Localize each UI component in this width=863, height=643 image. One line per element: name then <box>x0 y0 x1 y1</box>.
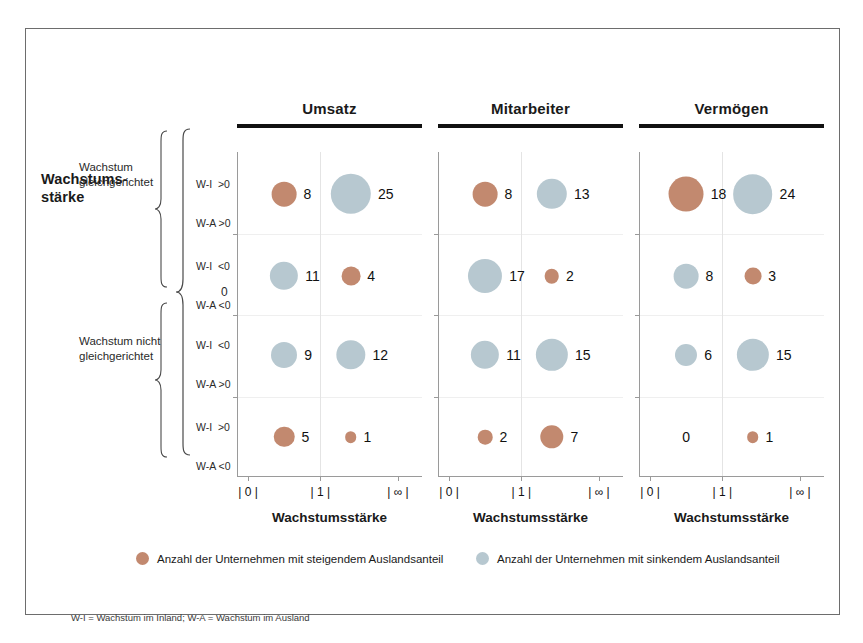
y-axis-tick-0 <box>635 234 640 235</box>
group-brace-opposed <box>154 301 170 459</box>
row-separator-2 <box>639 397 824 398</box>
x-axis-tick-0 <box>650 476 651 481</box>
bubble-value-mitarbeiter-r0c1: 13 <box>574 186 590 202</box>
row-label-1-line2: W-A <0 <box>196 299 231 312</box>
row-separator-0 <box>639 234 824 235</box>
x-axis-title-vermögen: Wachstumsstärke <box>639 510 824 525</box>
row-label-0-line2: W-A >0 <box>196 217 231 230</box>
row-separator-1 <box>237 315 422 316</box>
bubble-vermögen-r1c0[interactable] <box>674 264 699 289</box>
bubble-value-vermögen-r2c1: 15 <box>776 347 792 363</box>
y-axis-tick-0 <box>434 234 439 235</box>
plot-area-umsatz: 82511491251 <box>237 152 422 477</box>
bubble-mitarbeiter-r3c1[interactable] <box>540 425 563 448</box>
bubble-vermögen-r2c1[interactable] <box>737 339 769 371</box>
x-axis-tick-1 <box>320 476 321 481</box>
x-axis-tick-2 <box>800 476 801 481</box>
bubble-vermögen-r3c1[interactable] <box>747 431 759 443</box>
x-tick-label-1: | 1 | <box>712 485 732 499</box>
bubble-value-mitarbeiter-r2c0: 11 <box>506 347 521 363</box>
panel-title-vermögen: Vermögen <box>639 100 824 117</box>
bubble-value-vermögen-r0c0: 18 <box>711 186 727 202</box>
x-axis-tick-0 <box>248 476 249 481</box>
bubble-value-vermögen-r2c0: 6 <box>704 347 712 363</box>
plot-area-vermögen: 18248361501 <box>639 152 824 477</box>
panel-mitarbeiter: Mitarbeiter813172111527| 0 || 1 || ∞ |Wa… <box>438 152 623 477</box>
bubble-value-umsatz-r3c1: 1 <box>364 429 372 445</box>
row-label-0-line1: W-I >0 <box>196 178 231 191</box>
x-tick-label-0: | 0 | <box>640 485 660 499</box>
y-axis-tick-1 <box>434 315 439 316</box>
x-tick-label-2: | ∞ | <box>789 485 810 499</box>
x-tick-label-1: | 1 | <box>310 485 330 499</box>
bubble-value-mitarbeiter-r3c0: 2 <box>499 429 507 445</box>
bubble-value-umsatz-r0c0: 8 <box>304 186 312 202</box>
bubble-mitarbeiter-r1c0[interactable] <box>468 259 502 293</box>
bubble-umsatz-r1c0[interactable] <box>270 262 298 290</box>
bubble-umsatz-r0c1[interactable] <box>331 174 371 214</box>
bubble-umsatz-r2c1[interactable] <box>336 340 365 369</box>
x-axis-title-umsatz: Wachstumsstärke <box>237 510 422 525</box>
bubble-mitarbeiter-r0c0[interactable] <box>473 182 498 207</box>
panel-title-mitarbeiter: Mitarbeiter <box>438 100 623 117</box>
panel-rule-mitarbeiter <box>438 124 623 128</box>
row-group-label-opposed: Wachstum nicht gleichgerichtet <box>79 334 160 364</box>
y-axis-tick-0 <box>233 234 238 235</box>
x-gridline-one <box>320 152 321 477</box>
y-axis-tick-2 <box>635 397 640 398</box>
x-tick-label-2: | ∞ | <box>588 485 609 499</box>
bubble-mitarbeiter-r1c1[interactable] <box>544 269 559 284</box>
bubble-value-mitarbeiter-r3c1: 7 <box>570 429 578 445</box>
bubble-value-mitarbeiter-r1c0: 17 <box>509 268 525 284</box>
y-axis-tick-2 <box>434 397 439 398</box>
panel-rule-vermögen <box>639 124 824 128</box>
bubble-vermögen-r0c0[interactable] <box>669 177 704 212</box>
footnote: W-I = Wachstum im Inland; W-A = Wachstum… <box>71 612 310 623</box>
bubble-mitarbeiter-r2c1[interactable] <box>536 339 568 371</box>
x-axis-line <box>438 476 623 477</box>
x-axis-tick-0 <box>449 476 450 481</box>
bubble-value-umsatz-r2c0: 9 <box>304 347 312 363</box>
row-group-label-aligned-line2: gleichgerichtet <box>79 175 153 190</box>
x-tick-label-0: | 0 | <box>238 485 258 499</box>
bubble-mitarbeiter-r0c1[interactable] <box>537 179 567 209</box>
figure-frame: Wachstums- stärke Wachstum gleichgericht… <box>25 28 840 615</box>
x-axis-tick-2 <box>599 476 600 481</box>
y-axis-tick-2 <box>233 397 238 398</box>
plot-area-mitarbeiter: 813172111527 <box>438 152 623 477</box>
bubble-vermögen-r2c0[interactable] <box>675 344 697 366</box>
x-axis-title-mitarbeiter: Wachstumsstärke <box>438 510 623 525</box>
x-gridline-one <box>521 152 522 477</box>
bubble-vermögen-r0c1[interactable] <box>733 174 773 214</box>
panel-title-umsatz: Umsatz <box>237 100 422 117</box>
legend-label-rising: Anzahl der Unternehmen mit steigendem Au… <box>157 553 443 565</box>
legend-item-rising[interactable]: Anzahl der Unternehmen mit steigendem Au… <box>136 552 443 565</box>
legend-label-falling: Anzahl der Unternehmen mit sinkendem Aus… <box>497 553 780 565</box>
row-label-1-line1: W-I <0 <box>196 260 231 273</box>
x-axis-line <box>639 476 824 477</box>
y-axis-group-title-line2: stärke <box>41 188 128 206</box>
bubble-value-vermögen-r1c1: 3 <box>768 268 776 284</box>
bubble-umsatz-r3c1[interactable] <box>345 431 357 443</box>
bubble-umsatz-r1c1[interactable] <box>341 267 360 286</box>
bubble-value-vermögen-r3c0: 0 <box>682 429 690 445</box>
y-axis-tick-1 <box>233 315 238 316</box>
bubble-value-umsatz-r1c1: 4 <box>367 268 375 284</box>
bubble-mitarbeiter-r2c0[interactable] <box>471 341 499 369</box>
panel-umsatz: Umsatz82511491251| 0 || 1 || ∞ |Wachstum… <box>237 152 422 477</box>
legend-dot-rising <box>136 552 149 565</box>
row-separator-1 <box>438 315 623 316</box>
row-separator-2 <box>237 397 422 398</box>
bubble-umsatz-r3c0[interactable] <box>274 427 294 447</box>
bubble-vermögen-r1c1[interactable] <box>744 268 761 285</box>
bubble-umsatz-r0c0[interactable] <box>272 182 297 207</box>
legend-dot-falling <box>476 552 489 565</box>
bubble-mitarbeiter-r3c0[interactable] <box>478 430 493 445</box>
y-axis-zero-label: 0 <box>221 285 228 299</box>
bubble-value-mitarbeiter-r1c1: 2 <box>566 268 574 284</box>
bubble-value-mitarbeiter-r2c1: 15 <box>575 347 591 363</box>
bubble-value-vermögen-r3c1: 1 <box>766 429 774 445</box>
bubble-umsatz-r2c0[interactable] <box>271 342 297 368</box>
legend-item-falling[interactable]: Anzahl der Unternehmen mit sinkendem Aus… <box>476 552 780 565</box>
bubble-value-vermögen-r1c0: 8 <box>706 268 714 284</box>
